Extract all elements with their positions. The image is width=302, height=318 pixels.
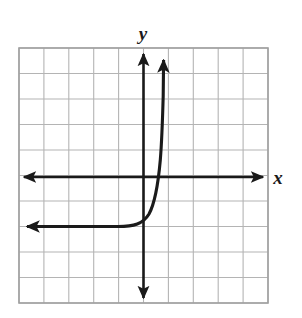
y-axis-label: y [137, 23, 148, 44]
x-axis-label: x [272, 167, 283, 188]
graph-figure: x y [0, 0, 302, 318]
coordinate-graph: x y [0, 0, 302, 318]
